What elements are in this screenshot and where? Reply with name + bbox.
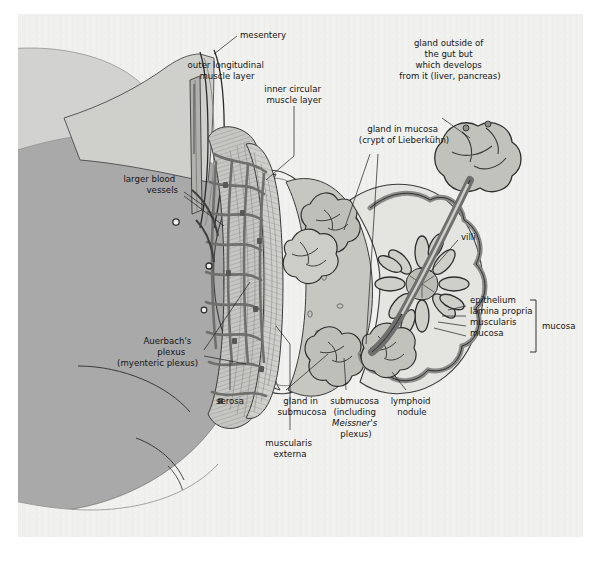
gland-outside-gut	[435, 121, 521, 192]
label-mucosa-bracket: mucosa	[542, 321, 576, 331]
label-muscularis-mucosa: mucosa	[470, 328, 504, 338]
label-gland-in-mucosa: gland in mucosa (crypt of Lieberkühn)	[359, 124, 449, 145]
blood-vessel-lumen-b	[206, 263, 212, 269]
diagram-frame: mesentery outer longitudinal muscle laye…	[18, 14, 583, 537]
blood-vessel-lumen-c	[201, 307, 207, 313]
villus	[439, 277, 469, 291]
villus	[415, 300, 429, 332]
label-epithelium: epithelium	[470, 295, 516, 305]
blood-vessel-lumen-a	[173, 219, 179, 225]
label-inner-circular-muscle-layer: inner circular muscle layer	[264, 84, 323, 105]
label-muscularis: muscularis	[470, 317, 517, 327]
label-serosa: serosa	[216, 396, 244, 406]
label-gland-in-submucosa: gland in submucosa	[278, 396, 327, 417]
label-villi: villi	[461, 232, 476, 242]
gut-wall-diagram: mesentery outer longitudinal muscle laye…	[18, 14, 583, 537]
label-lamina-propria: lamina propria	[470, 306, 533, 316]
villus	[375, 277, 405, 291]
figure-root: mesentery outer longitudinal muscle laye…	[0, 0, 600, 572]
label-mesentery: mesentery	[240, 30, 286, 40]
